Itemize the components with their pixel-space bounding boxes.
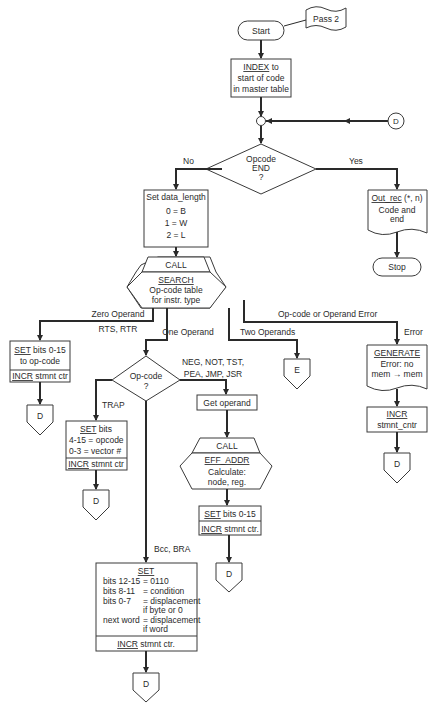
stop-label: Stop (388, 262, 406, 272)
set-data-length-box[interactable]: Set data_length 0 = B 1 = W 2 = L (144, 190, 208, 247)
zero-set-line1: SET bits 0-15 (14, 345, 66, 355)
incr-cntr-keyword: INCR (387, 409, 408, 419)
connector-d-label: D (393, 117, 399, 126)
call-eff-line2: Calculate: (208, 467, 246, 477)
pass-label: Pass 2 (313, 14, 339, 24)
label-rts-rtr: RTS, RTR (99, 324, 138, 334)
call-search-subroutine[interactable]: CALL SEARCH Op-code table for instr. typ… (127, 257, 226, 308)
label-yes: Yes (349, 156, 363, 166)
bcc-row-1-field: bits 12-15 (103, 576, 141, 586)
generate-line2: Error: no (380, 359, 413, 369)
zero-operand-set-box[interactable]: SET bits 0-15 to op-code INCR stmnt ctr (10, 341, 70, 382)
bcc-row-5-field: next word (103, 615, 140, 625)
generate-keyword: GENERATE (374, 348, 420, 358)
offpage-connector-d-2[interactable]: D (384, 453, 410, 483)
bcc-row-1-value: = 0110 (143, 576, 169, 586)
generate-error-document[interactable]: GENERATE Error: no mem → mem (367, 345, 427, 391)
offpage-e-label: E (294, 365, 300, 375)
index-process-box[interactable]: INDEX to start of code in master table (231, 59, 291, 97)
start-label: Start (252, 26, 271, 36)
zero-incr-line: INCR stmnt ctr (12, 371, 68, 381)
offpage-d-label-5: D (143, 679, 149, 689)
start-terminal[interactable]: Start (238, 21, 284, 40)
decision-opcode-end[interactable]: Opcode END ? (206, 144, 316, 194)
offpage-d-label-4: D (226, 569, 232, 579)
label-trap: TRAP (102, 400, 125, 410)
trap-set-box[interactable]: SET bits 4-15 = opcode 0-3 = vector # IN… (66, 421, 127, 470)
data-length-2: 2 = L (166, 230, 185, 240)
label-zero-operand: Zero Operand (92, 309, 145, 319)
trap-incr-line: INCR stmnt ctr (68, 459, 124, 469)
label-neg-group-1: NEG, NOT, TST, (182, 357, 244, 367)
call-eff-keyword: EFF_ADDR (205, 455, 250, 465)
call-eff-call: CALL (216, 441, 238, 451)
decision-opcode-line2: ? (144, 381, 149, 391)
out-rec-label: Out_rec (*, n) (371, 193, 422, 203)
offpage-d-label-3: D (93, 496, 99, 506)
generate-line3: mem → mem (372, 369, 423, 379)
call-search-keyword: SEARCH (158, 275, 193, 285)
label-neg-group-2: PEA, JMP, JSR (184, 369, 242, 379)
label-one-operand: One Operand (162, 327, 214, 337)
call-search-line2: Op-code table (149, 285, 203, 295)
stop-terminal[interactable]: Stop (373, 258, 421, 276)
bcc-incr-line: INCR stmnt ctr. (117, 639, 175, 649)
bcc-set-keyword: SET (138, 566, 155, 576)
bcc-row-3-field: bits 0-7 (103, 596, 131, 606)
flowchart-canvas: Start Pass 2 INDEX to start of code in m… (0, 0, 440, 710)
offpage-connector-d-4[interactable]: D (216, 563, 242, 592)
call-eff-addr-subroutine[interactable]: CALL EFF_ADDR Calculate: node, reg. (180, 438, 272, 489)
incr-cntr-line2: stmnt_cntr (377, 420, 417, 430)
label-no: No (183, 156, 194, 166)
set-box2-incr-line: INCR stmnt ctr. (201, 524, 259, 534)
offpage-connector-e[interactable]: E (284, 359, 310, 389)
set-bits-0-15-box[interactable]: SET bits 0-15 INCR stmnt ctr. (199, 506, 261, 535)
decision-opcode-line1: Op-code (130, 371, 163, 381)
zero-set-line2: to op-code (20, 356, 60, 366)
decision-opcode[interactable]: Op-code ? (112, 356, 180, 401)
out-rec-document[interactable]: Out_rec (*, n) Code and end (368, 190, 427, 235)
connector-d-top[interactable]: D (388, 113, 404, 129)
call-eff-line3: node, reg. (208, 477, 246, 487)
get-operand-label: Get operand (203, 398, 251, 408)
trap-set-line1: SET bits (80, 424, 112, 434)
out-rec-line3: end (390, 214, 404, 224)
incr-stmnt-cntr-box[interactable]: INCR stmnt_cntr (367, 407, 427, 432)
bcc-row-6-value: if word (143, 624, 168, 634)
bcc-row-2-field: bits 8-11 (103, 586, 135, 596)
label-error: Error (404, 327, 423, 337)
index-line2: start of code (238, 73, 285, 83)
label-opcode-error: Op-code or Operand Error (278, 309, 377, 319)
offpage-d-label-1: D (37, 411, 43, 421)
index-label: INDEX to (243, 62, 279, 72)
pass-annotation-flag: Pass 2 (284, 7, 346, 31)
index-line3: in master table (233, 84, 289, 94)
get-operand-box[interactable]: Get operand (197, 395, 257, 410)
offpage-connector-d-3[interactable]: D (83, 490, 109, 520)
data-length-0: 0 = B (166, 206, 186, 216)
offpage-connector-d-1[interactable]: D (27, 405, 53, 435)
call-search-line3: for instr. type (152, 295, 201, 305)
set-bits-line: SET bits 0-15 (204, 509, 256, 519)
bcc-set-box[interactable]: SET bits 12-15 = 0110 bits 8-11 = condit… (96, 563, 201, 651)
bcc-row-2-value: = condition (143, 586, 185, 596)
decision-end-line3: ? (259, 172, 264, 182)
junction-point (257, 117, 266, 126)
set-data-length-title: Set data_length (146, 192, 206, 202)
trap-set-line2: 4-15 = opcode (69, 435, 124, 445)
label-bcc: Bcc, BRA (154, 544, 191, 554)
offpage-d-label-2: D (394, 459, 400, 469)
bcc-row-4-value: if byte or 0 (143, 605, 183, 615)
trap-set-line3: 0-3 = vector # (69, 446, 121, 456)
offpage-connector-d-5[interactable]: D (133, 673, 159, 702)
label-two-operands: Two Operands (240, 327, 295, 337)
call-search-call: CALL (165, 260, 187, 270)
data-length-1: 1 = W (165, 218, 187, 228)
